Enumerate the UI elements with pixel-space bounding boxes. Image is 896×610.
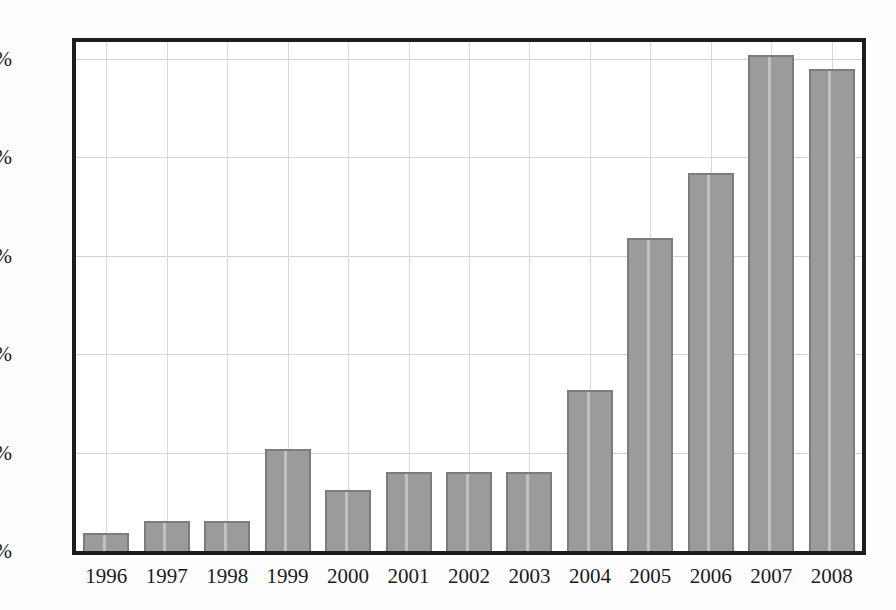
bar-highlight	[526, 474, 529, 551]
bar-highlight	[707, 175, 710, 551]
bar-highlight	[768, 57, 771, 551]
bar-highlight	[345, 492, 348, 551]
x-tick-label: 2005	[620, 566, 680, 587]
bar-2007	[748, 55, 794, 551]
bar-highlight	[587, 392, 590, 551]
bar-2004	[567, 390, 613, 551]
x-tick-label: 2001	[378, 566, 438, 587]
bar-highlight	[828, 71, 831, 551]
x-tick-label: 2000	[318, 566, 378, 587]
bar-chart: 0%5%10%15%20%25% 19961997199819992000200…	[0, 0, 896, 610]
x-tick-label: 1997	[136, 566, 196, 587]
bar-highlight	[163, 523, 166, 551]
bar-2006	[688, 173, 734, 551]
bar-highlight	[405, 474, 408, 551]
x-tick-label: 2004	[560, 566, 620, 587]
bar-1997	[144, 521, 190, 551]
x-tick-label: 1998	[197, 566, 257, 587]
y-tick-label: 15%	[0, 246, 12, 267]
bar-highlight	[466, 474, 469, 551]
bar-2000	[325, 490, 371, 551]
x-tick-label: 1999	[257, 566, 317, 587]
y-tick-label: 0%	[0, 541, 12, 562]
plot-inner	[76, 42, 862, 551]
x-tick-label: 2008	[802, 566, 862, 587]
bar-2001	[386, 472, 432, 551]
bars-layer	[76, 42, 862, 551]
bar-1998	[204, 521, 250, 551]
bar-highlight	[284, 451, 287, 551]
bar-2008	[809, 69, 855, 551]
bar-highlight	[103, 535, 106, 551]
y-tick-label: 20%	[0, 147, 12, 168]
y-tick-label: 25%	[0, 49, 12, 70]
x-tick-label: 2006	[681, 566, 741, 587]
y-tick-label: 10%	[0, 344, 12, 365]
bar-highlight	[647, 240, 650, 551]
x-tick-label: 1996	[76, 566, 136, 587]
bar-1996	[83, 533, 129, 551]
x-tick-label: 2002	[439, 566, 499, 587]
bar-2002	[446, 472, 492, 551]
bar-2005	[627, 238, 673, 551]
bar-1999	[265, 449, 311, 551]
bar-highlight	[224, 523, 227, 551]
bar-2003	[506, 472, 552, 551]
x-tick-label: 2007	[741, 566, 801, 587]
plot-area	[72, 38, 866, 555]
y-tick-label: 5%	[0, 443, 12, 464]
x-tick-label: 2003	[499, 566, 559, 587]
